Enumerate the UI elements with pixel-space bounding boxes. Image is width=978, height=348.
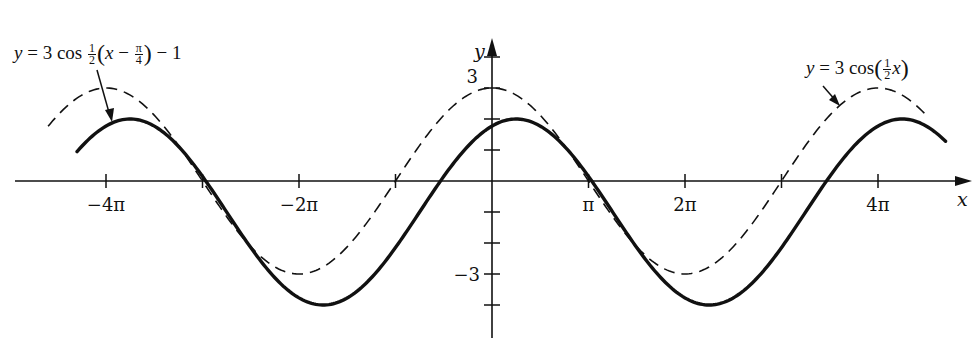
y-axis-arrow-icon (487, 38, 497, 56)
right-equation-label: y = 3 cos(12x) (806, 55, 909, 82)
y-tick-label: −3 (453, 264, 480, 285)
y-axis-label: y (473, 40, 485, 62)
y-tick-label: 3 (467, 66, 478, 87)
left-arrowhead-icon (105, 108, 114, 122)
x-axis-arrow-icon (955, 176, 972, 186)
curve-shifted-cosine (77, 119, 946, 305)
left-equation-label: y = 3 cos 12(x − π4) − 1 (14, 40, 181, 67)
left-annotation-arrow (97, 70, 110, 116)
x-axis-label: x (957, 188, 968, 210)
x-tick-label: 2π (673, 194, 696, 215)
y-tick-labels: 3−3 (453, 66, 480, 285)
x-tick-label: π (583, 194, 595, 215)
x-tick-label: −4π (87, 194, 126, 215)
x-tick-label: −2π (280, 194, 319, 215)
x-tick-label: 4π (866, 194, 889, 215)
